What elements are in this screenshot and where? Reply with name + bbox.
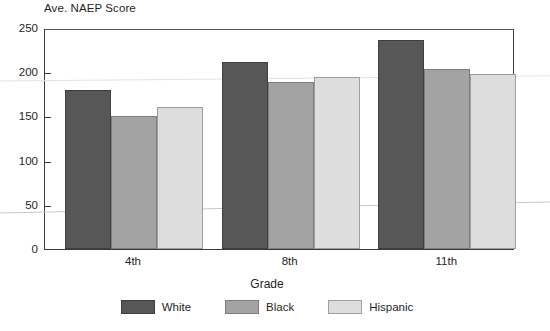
legend-label: Hispanic: [369, 301, 413, 313]
plot-area: [45, 30, 513, 249]
y-tick-label: 250: [4, 23, 38, 35]
y-tick-label: 100: [4, 156, 38, 168]
y-tick-label: 150: [4, 111, 38, 123]
bar-hispanic-8th: [314, 77, 360, 249]
legend-label: Black: [266, 301, 294, 313]
y-tick-mark: [44, 73, 51, 74]
y-tick-label: 0: [4, 244, 38, 256]
y-tick-mark: [44, 162, 51, 163]
bar-hispanic-4th: [157, 107, 203, 249]
bar-hispanic-11th: [470, 74, 516, 249]
bar-black-11th: [424, 69, 470, 249]
y-tick-label: 200: [4, 67, 38, 79]
bar-black-8th: [268, 82, 314, 249]
legend-swatch-hispanic: [328, 300, 362, 314]
legend-item-white: White: [121, 300, 191, 314]
x-tick-label: 11th: [436, 255, 458, 267]
bar-white-4th: [65, 90, 111, 249]
x-tick-label: 8th: [282, 255, 298, 267]
x-axis-title: Grade: [0, 277, 534, 291]
y-axis-tick-labels: 050100150200250: [0, 29, 38, 250]
y-axis-title: Ave. NAEP Score: [44, 2, 136, 14]
bar-black-4th: [111, 116, 157, 249]
legend-swatch-black: [225, 300, 259, 314]
legend-swatch-white: [121, 300, 155, 314]
legend-item-black: Black: [225, 300, 294, 314]
bar-white-8th: [222, 62, 268, 249]
plot-frame: [44, 29, 514, 250]
x-tick-label: 4th: [125, 255, 141, 267]
y-tick-mark: [44, 117, 51, 118]
legend-item-hispanic: Hispanic: [328, 300, 413, 314]
bar-white-11th: [378, 40, 424, 250]
y-tick-label: 50: [4, 200, 38, 212]
legend-label: White: [162, 301, 191, 313]
y-tick-mark: [44, 206, 51, 207]
chart-legend: WhiteBlackHispanic: [0, 300, 534, 314]
